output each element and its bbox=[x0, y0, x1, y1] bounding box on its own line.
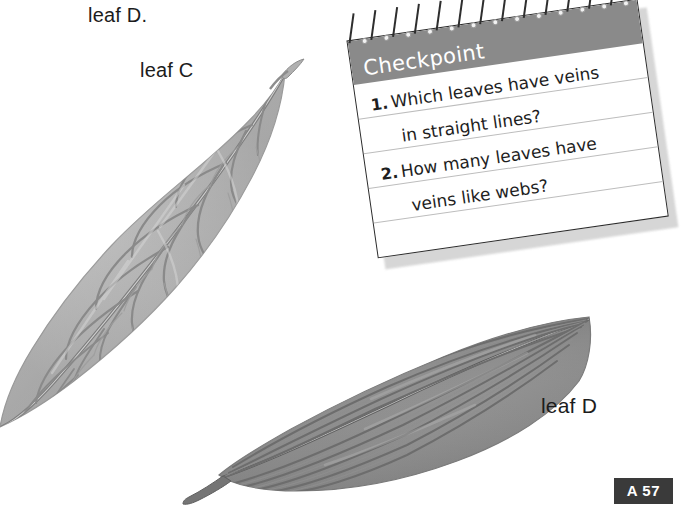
page-number-badge: A 57 bbox=[614, 478, 673, 504]
question-1-number: 1. bbox=[370, 93, 390, 114]
checkpoint-card: Checkpoint 1.Which leaves have veins in … bbox=[346, 0, 677, 278]
question-2-number: 2. bbox=[380, 163, 400, 184]
leaf-d-label: leaf D bbox=[541, 394, 597, 418]
leaf-d-top-label: leaf D. bbox=[88, 4, 147, 27]
leaf-c-label: leaf C bbox=[140, 59, 193, 82]
textbook-page: leaf D. leaf C leaf D Checkpoint 1.Which… bbox=[0, 0, 681, 512]
